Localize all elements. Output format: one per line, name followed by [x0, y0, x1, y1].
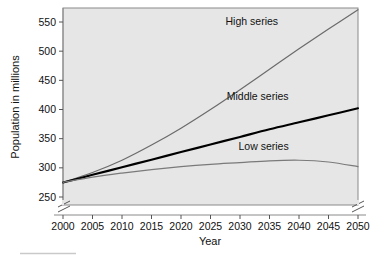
- y-tick-label-350: 350: [38, 132, 56, 144]
- population-projection-line-chart: 250300350400450500550 200020052010201520…: [0, 0, 375, 259]
- y-tick-label-500: 500: [38, 45, 56, 57]
- y-tick-label-450: 450: [38, 74, 56, 86]
- x-tick-label-2020: 2020: [169, 220, 193, 232]
- x-tick-label-2000: 2000: [51, 220, 75, 232]
- x-tick-label-2005: 2005: [81, 220, 105, 232]
- y-tick-label-400: 400: [38, 103, 56, 115]
- chart-figure: 250300350400450500550 200020052010201520…: [0, 0, 375, 259]
- y-axis-title: Population in millions: [9, 55, 21, 159]
- x-tick-label-2040: 2040: [287, 220, 311, 232]
- y-tick-label-300: 300: [38, 161, 56, 173]
- x-tick-label-2045: 2045: [317, 220, 341, 232]
- x-tick-label-2025: 2025: [199, 220, 223, 232]
- y-tick-label-550: 550: [38, 16, 56, 28]
- x-tick-label-2015: 2015: [140, 220, 164, 232]
- series-label-high-series: High series: [226, 15, 279, 27]
- series-label-middle-series: Middle series: [227, 90, 289, 102]
- series-label-low-series: Low series: [238, 140, 288, 152]
- x-tick-label-2010: 2010: [110, 220, 134, 232]
- x-axis-tick-labels: 2000200520102015202020252030203520402045…: [51, 220, 370, 232]
- x-tick-label-2030: 2030: [228, 220, 252, 232]
- y-tick-label-250: 250: [38, 191, 56, 203]
- x-tick-label-2050: 2050: [346, 220, 370, 232]
- x-axis-title: Year: [199, 235, 222, 247]
- x-tick-label-2035: 2035: [258, 220, 282, 232]
